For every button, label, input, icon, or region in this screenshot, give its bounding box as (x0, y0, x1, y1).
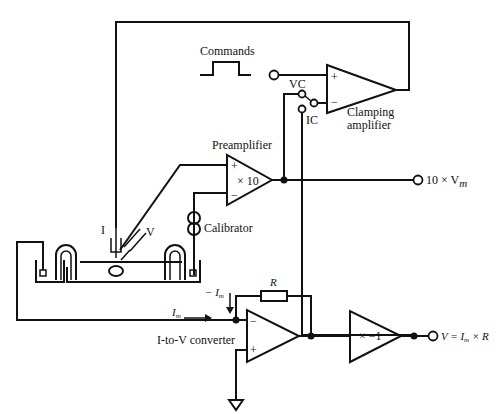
preamplifier: + − × 10 (227, 155, 272, 205)
preamp-output-terminal[interactable] (414, 176, 423, 185)
clamp-minus: − (331, 95, 338, 109)
i-to-v-converter: − + (247, 310, 299, 362)
current-output-terminal[interactable] (429, 332, 438, 341)
junction-dot (411, 333, 418, 340)
feedback-resistor (261, 291, 287, 301)
mode-switch[interactable] (299, 91, 328, 113)
im-label: Im (171, 306, 181, 320)
voltage-clamp-circuit-diagram: Commands + − Clamping amplifier VC IC + … (0, 0, 503, 414)
minus-im-label: − Im (205, 286, 224, 300)
svg-text:+: + (250, 343, 257, 357)
svg-text:−: − (231, 188, 238, 202)
ic-contact[interactable] (299, 106, 306, 113)
preamp-gain: × 10 (237, 174, 259, 188)
calibrator-label: Calibrator (204, 221, 253, 235)
junction-dot (308, 333, 315, 340)
clamp-plus: + (331, 70, 338, 84)
inverter-gain: × −1 (359, 329, 382, 343)
commands-label: Commands (200, 44, 255, 58)
oocyte (109, 266, 123, 276)
ic-label: IC (306, 113, 318, 127)
switch-common[interactable] (311, 100, 318, 107)
command-pulse-icon (200, 62, 251, 75)
output-v-label: V = Im × R (441, 330, 489, 344)
svg-text:−: − (250, 314, 257, 328)
inverter-amplifier: × −1 (350, 311, 401, 362)
ground-icon (229, 400, 243, 410)
vc-label: VC (289, 77, 306, 91)
preamp-output-label: 10 × Vm (426, 173, 467, 189)
clamping-label-1: Clamping (347, 105, 394, 119)
i-to-v-label: I-to-V converter (157, 333, 235, 347)
clamping-label-2: amplifier (347, 118, 391, 132)
electrode-i-label: I (101, 223, 105, 237)
vc-contact[interactable] (299, 91, 306, 98)
preamplifier-label: Preamplifier (212, 138, 272, 152)
junction-dot (281, 177, 288, 184)
svg-text:+: + (231, 159, 238, 173)
electrode-v-label: V (146, 225, 155, 239)
current-electrode (111, 228, 121, 258)
command-input-terminal[interactable] (270, 71, 279, 80)
resistor-label: R (269, 276, 277, 288)
